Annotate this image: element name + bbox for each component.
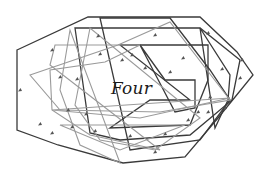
arrow-mark-icon: [50, 131, 54, 135]
arrow-mark-icon: [206, 110, 210, 114]
arrow-mark-icon: [128, 134, 132, 138]
arrow-mark-icon: [220, 67, 224, 71]
arrow-mark-icon: [75, 77, 79, 81]
diagram-label: Four: [111, 78, 152, 98]
polygon-11: [52, 98, 230, 118]
arrow-mark-icon: [168, 70, 172, 74]
arrow-mark-icon: [120, 58, 124, 62]
arrow-mark-icon: [186, 118, 190, 122]
arrow-mark-icon: [238, 76, 242, 80]
arrow-mark-icon: [196, 110, 200, 114]
arrow-mark-icon: [58, 75, 62, 79]
arrow-mark-icon: [153, 33, 157, 37]
arrow-mark-icon: [38, 122, 42, 126]
arrow-mark-icon: [98, 52, 102, 56]
polygon-12: [60, 125, 185, 150]
arrow-mark-icon: [181, 56, 185, 60]
arrow-mark-icon: [18, 88, 22, 92]
